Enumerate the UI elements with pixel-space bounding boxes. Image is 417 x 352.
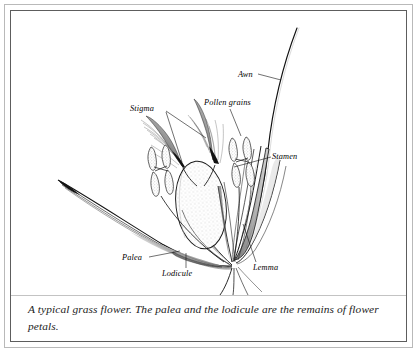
label-awn: Awn <box>238 70 253 79</box>
grass-flower-illustration <box>10 10 407 295</box>
label-lemma: Lemma <box>253 263 278 272</box>
label-pollen-grains: Pollen grains <box>204 98 251 107</box>
label-stamen: Stamen <box>272 152 297 161</box>
label-lodicule: Lodicule <box>162 269 192 278</box>
caption-divider <box>11 295 406 296</box>
figure-caption: A typical grass flower. The palea and th… <box>28 301 388 334</box>
label-stigma: Stigma <box>130 104 154 113</box>
illustration-plate: Stigma Pollen grains Awn Stamen Palea Lo… <box>10 10 407 295</box>
label-palea: Palea <box>122 253 142 262</box>
